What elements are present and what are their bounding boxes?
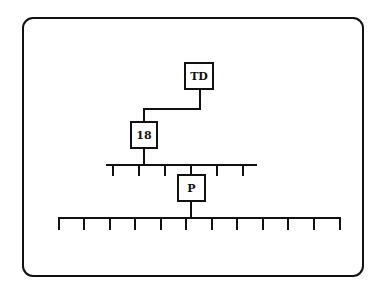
- node-18-label: 18: [136, 129, 151, 142]
- diagram-canvas: TD 18 P: [0, 0, 383, 290]
- td-down-connector: [199, 89, 201, 110]
- upper-bus-tick: [164, 164, 166, 176]
- upper-bus-tick: [138, 164, 140, 176]
- lower-bus-tick: [287, 217, 289, 230]
- node-18: 18: [130, 121, 158, 149]
- lower-bus-tick: [211, 217, 213, 230]
- upper-bus-tick: [242, 164, 244, 176]
- node-td-label: TD: [190, 70, 208, 83]
- lower-bus: [58, 217, 341, 219]
- lower-bus-tick: [185, 217, 187, 230]
- lower-bus-tick: [83, 217, 85, 230]
- node-p: P: [177, 174, 206, 202]
- diagram-frame: [22, 17, 364, 277]
- lower-bus-tick: [339, 217, 341, 230]
- lower-bus-tick: [58, 217, 60, 230]
- lower-bus-tick: [236, 217, 238, 230]
- upper-bus-tick: [216, 164, 218, 176]
- node-td: TD: [184, 62, 214, 90]
- lower-bus-tick: [109, 217, 111, 230]
- td-18-horizontal-connector: [143, 108, 201, 110]
- lower-bus-tick: [160, 217, 162, 230]
- 18-up-connector: [143, 108, 145, 122]
- upper-bus-tick: [112, 164, 114, 176]
- lower-bus-tick: [313, 217, 315, 230]
- upper-bus: [106, 164, 257, 166]
- node-p-label: P: [187, 182, 195, 195]
- lower-bus-tick: [134, 217, 136, 230]
- lower-bus-tick: [262, 217, 264, 230]
